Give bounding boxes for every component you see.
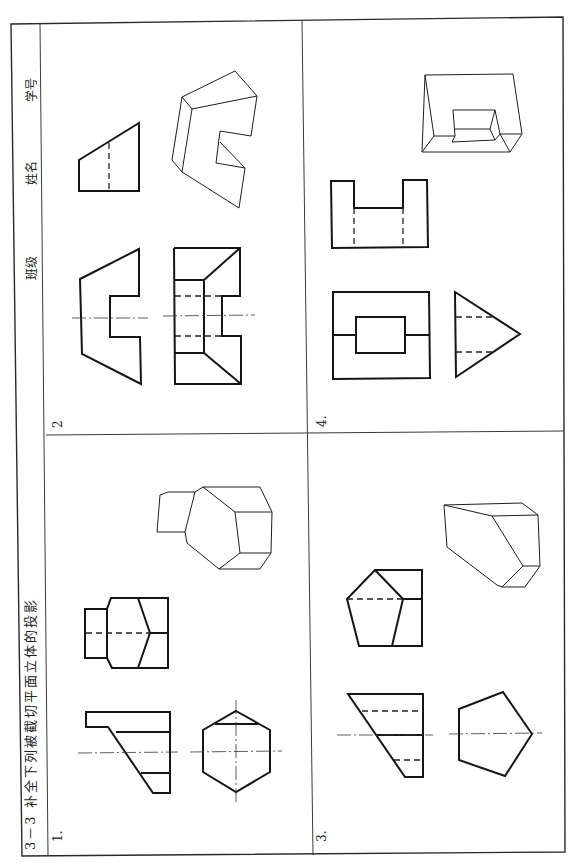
header-field-student-id: 学号 [22, 78, 39, 102]
problem-4-drawings [331, 74, 522, 379]
header-field-name: 姓名 [22, 161, 39, 185]
problem-1-drawings [78, 487, 282, 803]
header-field-class: 班级 [22, 256, 39, 280]
problem-label-2: 2 [51, 420, 65, 428]
sheet-frame [11, 17, 565, 856]
worksheet-drawing [0, 0, 584, 863]
problem-2-drawings [72, 71, 257, 384]
sheet-title: 3－3 补全下列被截切平面立体的投影 [20, 598, 39, 850]
problem-3-drawings [337, 503, 542, 777]
problem-label-4: 4. [315, 416, 329, 427]
problem-label-3: 3. [315, 831, 329, 842]
problem-label-1: 1. [51, 831, 65, 842]
